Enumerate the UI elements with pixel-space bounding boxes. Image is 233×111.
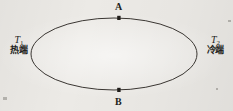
hot-terminal-label: 热端 [4, 45, 34, 56]
junction-marker-a [117, 16, 120, 20]
cold-terminal-label: 冷端 [200, 45, 231, 56]
junction-marker-b [117, 88, 120, 92]
junction-label-a: A [115, 2, 122, 12]
cold-temperature-symbol: T2 [200, 34, 231, 45]
hot-temperature-symbol: T1 [4, 34, 34, 45]
cold-terminal-group: T2 冷端 [200, 34, 231, 56]
hot-terminal-group: T1 热端 [4, 34, 34, 56]
junction-label-b: B [115, 97, 122, 107]
thermocouple-diagram: A B T1 热端 T2 冷端 [0, 0, 233, 111]
thermocouple-loop-ellipse [31, 18, 197, 90]
circuit-loop-graphic [0, 0, 233, 111]
